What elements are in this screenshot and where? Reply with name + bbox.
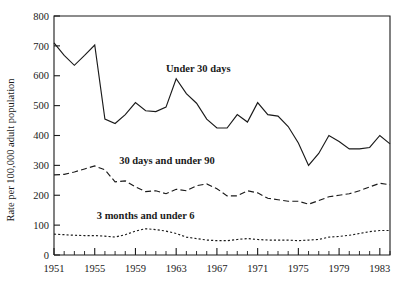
y-axis-title: Rate per 100,000 adult population: [5, 78, 16, 222]
chart-container: 0100200300400500600700800 19511955195919…: [0, 0, 419, 293]
chart-background: [0, 0, 419, 293]
x-tick-label: 1959: [125, 263, 146, 274]
y-axis-tick-labels: 0100200300400500600700800: [33, 11, 49, 261]
y-tick-label: 0: [44, 250, 49, 261]
x-tick-label: 1975: [288, 263, 309, 274]
x-axis-tick-labels: 195119551959196319671971197519791983: [44, 263, 391, 274]
y-tick-label: 300: [33, 160, 49, 171]
y-tick-label: 700: [33, 41, 49, 52]
x-tick-label: 1963: [166, 263, 187, 274]
x-tick-label: 1951: [44, 263, 65, 274]
y-tick-label: 800: [33, 11, 49, 22]
x-tick-label: 1983: [369, 263, 390, 274]
y-tick-label: 400: [33, 130, 49, 141]
y-tick-label: 600: [33, 70, 49, 81]
series-annotation-0: Under 30 days: [166, 63, 231, 74]
x-tick-label: 1979: [329, 263, 350, 274]
x-tick-label: 1967: [206, 263, 227, 274]
line-chart: 0100200300400500600700800 19511955195919…: [0, 0, 419, 293]
series-annotation-1: 30 days and under 90: [119, 155, 215, 166]
x-tick-label: 1955: [84, 263, 105, 274]
x-tick-label: 1971: [247, 263, 268, 274]
y-tick-label: 100: [33, 220, 49, 231]
series-annotation-2: 3 months and under 6: [97, 210, 195, 221]
y-tick-label: 500: [33, 100, 49, 111]
y-tick-label: 200: [33, 190, 49, 201]
